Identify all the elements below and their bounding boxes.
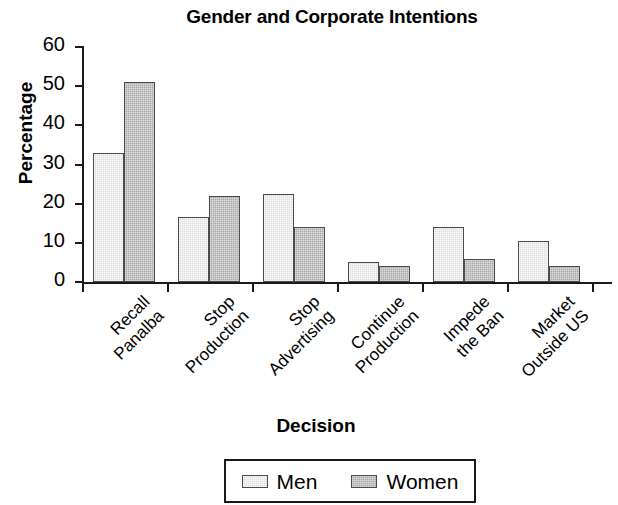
y-axis-tick-label: 50	[25, 73, 69, 93]
chart-legend: MenWomen	[224, 459, 476, 503]
chart-title: Gender and Corporate Intentions	[0, 6, 618, 28]
y-axis-tick-label: 40	[25, 112, 69, 132]
legend-label: Women	[386, 471, 458, 492]
plot-area: 6050403020100	[82, 46, 618, 283]
bar-women-0	[124, 82, 155, 282]
legend-swatch-icon	[351, 475, 377, 488]
bar-women-3	[379, 266, 410, 282]
bar-women-4	[464, 259, 495, 283]
x-axis-tick	[252, 283, 254, 292]
bar-men-3	[348, 262, 379, 282]
bar-men-2	[263, 194, 294, 282]
x-axis-tick	[167, 283, 169, 292]
y-axis-tick-label: 30	[25, 152, 69, 172]
bar-men-4	[433, 227, 464, 282]
bar-men-1	[178, 217, 209, 282]
y-axis-tick: 20	[75, 203, 83, 205]
y-axis-tick: 50	[75, 85, 83, 87]
x-axis-line	[82, 282, 612, 284]
x-axis-tick	[592, 283, 594, 292]
legend-item-men[interactable]: Men	[242, 471, 318, 492]
y-axis-tick-label: 60	[25, 34, 69, 54]
x-axis-tick	[422, 283, 424, 292]
legend-swatch-icon	[242, 475, 268, 488]
y-axis-tick-label: 0	[25, 269, 69, 289]
legend-item-women[interactable]: Women	[351, 471, 458, 492]
y-axis-tick-label: 20	[25, 191, 69, 211]
x-axis-tick	[82, 283, 84, 292]
y-axis-tick: 30	[75, 164, 83, 166]
bar-chart: Gender and Corporate Intentions Percenta…	[0, 0, 618, 505]
y-axis-tick: 10	[75, 242, 83, 244]
x-axis-label: Decision	[46, 415, 586, 437]
bar-men-0	[93, 153, 124, 282]
x-axis-tick	[507, 283, 509, 292]
bar-women-2	[294, 227, 325, 282]
bar-women-5	[549, 266, 580, 282]
bar-men-5	[518, 241, 549, 282]
y-axis-tick: 40	[75, 124, 83, 126]
bar-women-1	[209, 196, 240, 282]
y-axis-tick-label: 10	[25, 230, 69, 250]
legend-label: Men	[277, 471, 318, 492]
x-axis-tick	[337, 283, 339, 292]
y-axis-tick: 60	[75, 46, 83, 48]
